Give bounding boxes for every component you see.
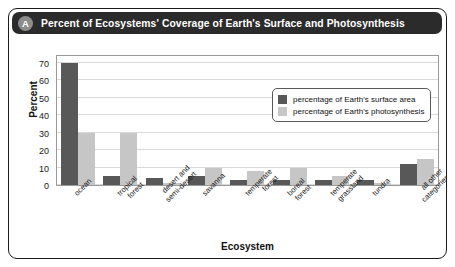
figure-badge: A — [18, 16, 33, 31]
bar — [315, 180, 332, 185]
x-axis-title: Ecosystem — [56, 241, 439, 252]
bar — [230, 180, 247, 185]
legend-label: percentage of Earth's surface area — [293, 95, 416, 104]
legend-item: percentage of Earth's photosynthesis — [278, 105, 424, 117]
bar-group — [184, 56, 226, 185]
bar-group — [142, 56, 184, 185]
bar — [103, 176, 120, 185]
x-axis-tick-labels: oceantropical forestdesert and semi-dese… — [56, 188, 439, 243]
y-axis-tick-label: 40 — [39, 111, 49, 121]
figure-title: Percent of Ecosystems' Coverage of Earth… — [41, 18, 405, 29]
bar — [400, 164, 417, 185]
y-axis-tick-label: 0 — [44, 181, 49, 191]
legend-label: percentage of Earth's photosynthesis — [293, 107, 424, 116]
y-axis-tick-label: 10 — [39, 164, 49, 174]
bar-group — [226, 56, 268, 185]
legend-swatch — [278, 95, 287, 104]
chart-legend: percentage of Earth's surface areapercen… — [272, 88, 431, 122]
y-axis-tick-label: 60 — [39, 76, 49, 86]
y-axis-tick-label: 20 — [39, 146, 49, 156]
y-axis-ticks: 010203040506070 — [21, 55, 52, 186]
figure-panel: A Percent of Ecosystems' Coverage of Ear… — [8, 8, 447, 259]
legend-swatch — [278, 107, 287, 116]
bar — [146, 178, 163, 185]
bar-group — [57, 56, 99, 185]
y-axis-tick-label: 50 — [39, 94, 49, 104]
y-axis-tick-label: 30 — [39, 129, 49, 139]
chart-area: Percent 010203040506070 oceantropical fo… — [9, 36, 447, 258]
figure-header: A Percent of Ecosystems' Coverage of Ear… — [12, 12, 442, 34]
bar — [61, 63, 78, 185]
y-axis-tick-label: 70 — [39, 59, 49, 69]
bar-group — [99, 56, 141, 185]
legend-item: percentage of Earth's surface area — [278, 93, 424, 105]
